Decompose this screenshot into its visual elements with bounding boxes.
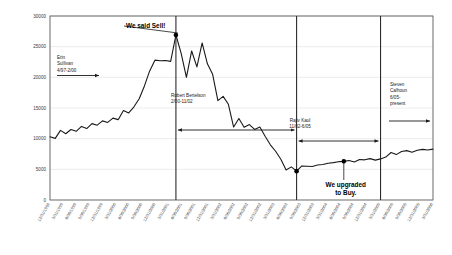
x-axis-tick-label: 3/31/2005 bbox=[368, 201, 382, 220]
x-axis-tick-label: 3/31/2000 bbox=[103, 201, 117, 220]
manager-dates-rajiv-kaul: 11/02-6/05 bbox=[289, 124, 311, 129]
x-axis-tick-label: 9/30/2000 bbox=[130, 201, 144, 220]
x-axis-tick-label: 12/31/2000 bbox=[142, 201, 157, 222]
x-axis-tick-label: 12/31/2003 bbox=[300, 201, 315, 222]
x-axis-tick-label: 6/30/2002 bbox=[222, 201, 236, 220]
y-axis-tick-label: 30000 bbox=[33, 14, 46, 19]
x-axis-tick-label: 3/31/2006 bbox=[420, 201, 434, 220]
manager-label-steven-calhoun: present bbox=[390, 101, 406, 106]
x-axis-tick-label: 6/30/1999 bbox=[64, 201, 78, 220]
x-axis-tick-label: 9/30/2005 bbox=[394, 201, 408, 220]
manager-label-erin-sullivan: 4/97-2/00 bbox=[57, 68, 77, 73]
x-axis-tick-label: 12/31/2001 bbox=[195, 201, 210, 222]
x-axis-tick-label: 12/31/2005 bbox=[406, 201, 421, 222]
x-axis-tick-label: 12/31/1998 bbox=[36, 201, 51, 222]
x-axis-tick-label: 12/31/2002 bbox=[248, 201, 263, 222]
y-axis-tick-label: 25000 bbox=[33, 44, 46, 49]
x-axis-tick-label: 6/30/2001 bbox=[169, 201, 183, 220]
x-axis-tick-label: 3/31/2002 bbox=[209, 201, 223, 220]
callout-we-said-sell: We said Sell! bbox=[126, 22, 165, 29]
y-axis-tick-label: 5000 bbox=[36, 167, 47, 172]
x-axis-tick-label: 6/30/2005 bbox=[381, 201, 395, 220]
x-axis-tick-label: 9/30/2001 bbox=[183, 201, 197, 220]
manager-label-erin-sullivan: Erin bbox=[57, 55, 66, 60]
manager-label-steven-calhoun: 6/05- bbox=[390, 95, 401, 100]
manager-label-steven-calhoun: Calhoun bbox=[390, 88, 408, 93]
x-axis-tick-label: 9/30/2002 bbox=[236, 201, 250, 220]
x-axis-tick-label: 12/31/1999 bbox=[89, 201, 104, 222]
x-axis-tick-label: 9/30/1999 bbox=[77, 201, 91, 220]
manager-dates-robert-bertelson: 2/00-11/02 bbox=[171, 99, 193, 104]
x-axis-tick-label: 6/30/2004 bbox=[328, 201, 342, 220]
manager-label-rajiv-kaul: Rajiv Kaul bbox=[290, 118, 311, 123]
x-axis-tick-label: 6/30/2000 bbox=[117, 201, 131, 220]
x-axis-tick-label: 9/30/2003 bbox=[288, 201, 302, 220]
x-axis-tick-label: 3/31/2004 bbox=[315, 201, 329, 220]
data-point-marker-3 bbox=[342, 159, 347, 164]
y-axis-tick-label: 10000 bbox=[33, 136, 46, 141]
line-chart: 05000100001500020000250003000012/31/1998… bbox=[0, 0, 452, 255]
chart-container: 05000100001500020000250003000012/31/1998… bbox=[0, 0, 452, 255]
x-axis-tick-label: 12/31/2004 bbox=[353, 201, 368, 222]
manager-label-robert-bertelson: Robert Bertelson bbox=[171, 93, 206, 98]
manager-label-erin-sullivan: Sullivan bbox=[57, 61, 74, 66]
manager-label-steven-calhoun: Steven bbox=[390, 82, 405, 87]
x-axis-tick-label: 6/30/2003 bbox=[275, 201, 289, 220]
x-axis-tick-label: 3/31/2003 bbox=[262, 201, 276, 220]
data-point-marker-1 bbox=[174, 33, 179, 38]
data-point-marker-2 bbox=[294, 169, 299, 174]
y-axis-tick-label: 15000 bbox=[33, 106, 46, 111]
y-axis-tick-label: 20000 bbox=[33, 75, 46, 80]
fund-value-line bbox=[50, 35, 433, 171]
callout-we-upgraded-to-buy-line2: to Buy. bbox=[335, 189, 356, 197]
x-axis-tick-label: 9/30/2004 bbox=[341, 201, 355, 220]
x-axis-tick-label: 3/31/1999 bbox=[51, 201, 65, 220]
x-axis-tick-label: 3/31/2001 bbox=[156, 201, 170, 220]
